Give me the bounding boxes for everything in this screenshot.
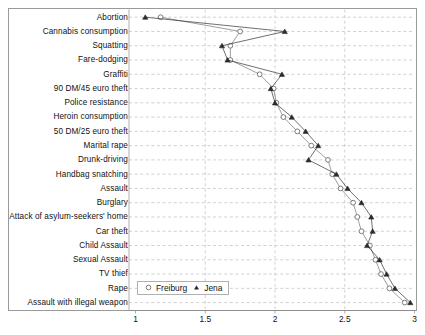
x-tick-label-1: 1.5	[199, 314, 211, 324]
data-point-freiburg-19	[387, 286, 392, 291]
data-point-freiburg-12	[338, 186, 343, 191]
data-point-freiburg-18	[379, 272, 384, 277]
data-point-freiburg-15	[359, 229, 364, 234]
data-point-freiburg-9	[309, 143, 314, 148]
data-point-jena-14	[369, 215, 374, 220]
x-tick-label-0: 1	[133, 314, 138, 324]
data-point-freiburg-10	[326, 158, 331, 163]
data-point-freiburg-8	[295, 129, 300, 134]
data-point-freiburg-4	[257, 72, 262, 77]
data-point-freiburg-7	[281, 115, 286, 120]
legend-entry-jena[interactable]: Jena	[192, 283, 222, 293]
x-tick-label-4: 3	[412, 314, 417, 324]
chart-legend: FreiburgJena	[137, 281, 229, 295]
filled-triangle-marker-icon	[192, 283, 201, 292]
legend-label-freiburg: Freiburg	[156, 283, 187, 293]
data-point-freiburg-14	[355, 215, 360, 220]
x-tick-label-3: 2.5	[339, 314, 351, 324]
open-circle-marker-icon	[144, 283, 153, 292]
legend-entry-freiburg[interactable]: Freiburg	[144, 283, 187, 293]
legend-label-jena: Jena	[204, 283, 222, 293]
data-point-freiburg-13	[351, 200, 356, 205]
data-point-freiburg-20	[402, 300, 407, 305]
scatter-line-chart: AbortionCannabis consumptionSquattingFar…	[0, 0, 425, 335]
data-point-freiburg-1	[238, 29, 243, 34]
x-tick-label-2: 2	[273, 314, 278, 324]
